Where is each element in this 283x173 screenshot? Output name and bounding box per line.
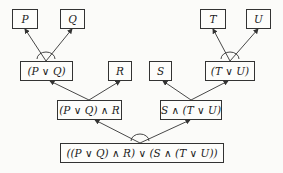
- edge-arrow: [191, 81, 228, 100]
- node-label: Q: [68, 13, 77, 25]
- edge-arrow: [25, 29, 46, 61]
- and-or-tree-diagram: PQTU(P ∨ Q)RS(T ∨ U)(P ∨ Q) ∧ RS ∧ (T ∨ …: [0, 0, 283, 173]
- edge-arrow: [46, 29, 72, 61]
- node-label: S ∧ (T ∨ U): [161, 104, 221, 116]
- node-r: R: [108, 61, 132, 81]
- node-label: (P ∨ Q): [27, 65, 65, 77]
- node-pq: (P ∨ Q): [20, 61, 73, 81]
- edge-arrow: [140, 120, 190, 143]
- node-root: ((P ∨ Q) ∧ R) ∨ (S ∧ (T ∨ U)): [60, 143, 224, 163]
- node-label: (T ∨ U): [211, 65, 249, 77]
- node-s: S: [149, 61, 172, 81]
- node-label: S: [157, 65, 164, 77]
- node-tu: (T ∨ U): [205, 61, 255, 81]
- node-label: P: [21, 13, 28, 25]
- and-arc: [221, 52, 239, 59]
- node-t: T: [200, 9, 226, 29]
- node-label: R: [116, 65, 124, 77]
- node-label: (P ∨ Q) ∧ R: [59, 104, 120, 116]
- edge-arrow: [50, 81, 89, 100]
- node-label: T: [209, 13, 216, 25]
- edge-arrow: [95, 120, 140, 143]
- node-stu: S ∧ (T ∨ U): [160, 100, 222, 120]
- node-pqr: (P ∨ Q) ∧ R: [57, 100, 122, 120]
- node-q: Q: [60, 9, 85, 29]
- node-label: ((P ∨ Q) ∧ R) ∨ (S ∧ (T ∨ U)): [66, 147, 217, 159]
- edge-arrow: [89, 81, 120, 100]
- node-p: P: [12, 9, 38, 29]
- edge-arrow: [230, 29, 258, 61]
- node-label: U: [254, 13, 263, 25]
- node-u: U: [246, 9, 271, 29]
- edge-arrow: [163, 81, 191, 100]
